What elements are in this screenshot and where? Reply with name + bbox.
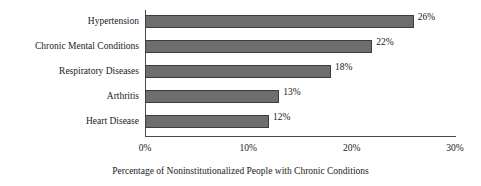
bar-value-label: 22% [376, 36, 393, 49]
x-tick-label: 30% [431, 142, 479, 155]
bar-row: 12% [145, 110, 455, 135]
x-tick-label: 10% [224, 142, 272, 155]
bar-value-label: 26% [418, 11, 435, 24]
x-tick-label: 20% [328, 142, 376, 155]
category-label: Heart Disease [0, 114, 145, 128]
bar-value-label: 12% [273, 111, 290, 124]
category-label: Chronic Mental Conditions [0, 39, 145, 53]
category-label: Hypertension [0, 14, 145, 28]
category-label: Respiratory Diseases [0, 64, 145, 78]
bar[interactable] [145, 15, 414, 28]
x-axis-title: Percentage of Noninstitutionalized Peopl… [0, 165, 481, 178]
bar-row: 18% [145, 60, 455, 85]
bar[interactable] [145, 90, 279, 103]
bar-row: 26% [145, 10, 455, 35]
bar[interactable] [145, 40, 372, 53]
bar-value-label: 18% [335, 61, 352, 74]
bar[interactable] [145, 65, 331, 78]
bar[interactable] [145, 115, 269, 128]
bar-row: 13% [145, 85, 455, 110]
category-label: Arthritis [0, 89, 145, 103]
bar-row: 22% [145, 35, 455, 60]
x-tick-label: 0% [121, 142, 169, 155]
bar-chart-figure: 26%22%18%13%12% HypertensionChronic Ment… [0, 0, 481, 186]
x-axis-line [145, 136, 456, 137]
bar-value-label: 13% [283, 86, 300, 99]
